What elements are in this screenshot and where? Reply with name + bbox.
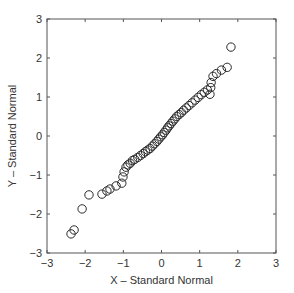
data-point xyxy=(182,104,190,112)
x-tick-label: 2 xyxy=(235,257,241,269)
y-tick-label: 1 xyxy=(36,91,42,103)
y-tick-label: 0 xyxy=(36,130,42,142)
y-tick-label: −1 xyxy=(29,169,42,181)
data-point xyxy=(227,43,235,51)
y-tick-label: −2 xyxy=(29,208,42,220)
plot-area xyxy=(67,43,235,238)
y-tick-label: 2 xyxy=(36,52,42,64)
x-tick-label: −3 xyxy=(41,257,54,269)
x-tick-label: 3 xyxy=(273,257,279,269)
scatter-chart: −3−2−10123 −3−2−10123 X – Standard Norma… xyxy=(0,0,294,293)
x-tick-label: −1 xyxy=(117,257,130,269)
y-tick-labels: −3−2−10123 xyxy=(29,13,42,259)
y-tick-label: −3 xyxy=(29,247,42,259)
data-point xyxy=(85,191,93,199)
x-tick-labels: −3−2−10123 xyxy=(41,257,279,269)
x-tick-label: 0 xyxy=(158,257,164,269)
y-axis-label: Y – Standard Normal xyxy=(6,85,18,188)
data-point xyxy=(78,205,86,213)
x-tick-label: 1 xyxy=(197,257,203,269)
y-tick-label: 3 xyxy=(36,13,42,25)
x-axis-label: X – Standard Normal xyxy=(110,274,213,286)
x-tick-label: −2 xyxy=(79,257,92,269)
